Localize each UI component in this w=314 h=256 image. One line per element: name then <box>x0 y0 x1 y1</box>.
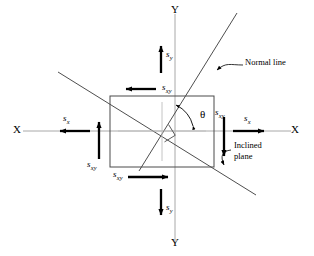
label-s-xy-top: sxy <box>162 83 171 92</box>
normal-line <box>139 13 237 171</box>
axis-label-y-bottom: Y <box>171 237 179 249</box>
label-s-xy-bottom: sxy <box>113 170 122 179</box>
label-s-x-left-symbol: s <box>63 113 67 123</box>
axis-label-x-left: X <box>13 124 21 136</box>
label-s-xy-right-subscript: xy <box>219 112 225 119</box>
inclined-plane-annotation-line2: plane <box>234 152 252 162</box>
label-s-y-top-symbol: s <box>166 49 170 59</box>
label-s-x-right-subscript: x <box>248 118 251 125</box>
theta-angle-label: θ <box>200 109 205 121</box>
theta-angle-arc <box>176 105 193 126</box>
label-s-x-right: sx <box>244 114 250 123</box>
label-s-xy-left-subscript: xy <box>91 164 97 171</box>
label-s-xy-top-subscript: xy <box>166 87 172 94</box>
label-s-y-bottom-symbol: s <box>166 202 170 212</box>
label-s-xy-right: sxy <box>215 108 224 117</box>
axis-label-y-top: Y <box>171 4 179 16</box>
label-s-xy-left-symbol: s <box>87 159 91 169</box>
label-s-xy-right-symbol: s <box>215 107 219 117</box>
axis-label-x-right: X <box>291 124 299 136</box>
label-s-x-left-subscript: x <box>67 118 70 125</box>
normal-line-annotation: Normal line <box>245 58 286 68</box>
diagram-canvas: Y Y X X θ Normal line Inclined plane sy … <box>0 0 314 256</box>
label-s-xy-bottom-subscript: xy <box>117 174 123 181</box>
label-s-y-top-subscript: y <box>170 54 173 61</box>
label-s-x-left: sx <box>63 114 69 123</box>
stress-element-figure <box>0 0 314 256</box>
label-s-y-bottom-subscript: y <box>170 207 173 214</box>
normal-line-leader <box>217 64 243 70</box>
inclined-plane-annotation-line1: Inclined <box>234 141 262 151</box>
label-s-xy-left: sxy <box>87 160 96 169</box>
label-s-x-right-symbol: s <box>244 113 248 123</box>
label-s-y-top: sy <box>166 50 172 59</box>
label-s-y-bottom: sy <box>166 203 172 212</box>
label-s-xy-top-symbol: s <box>162 82 166 92</box>
global-axes <box>23 14 291 244</box>
label-s-xy-bottom-symbol: s <box>113 169 117 179</box>
